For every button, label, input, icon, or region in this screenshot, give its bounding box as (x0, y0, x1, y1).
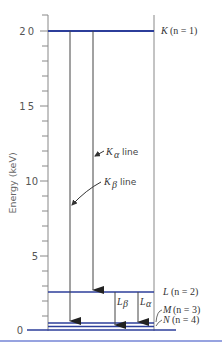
y-axis (27, 15, 48, 331)
svg-text:(n = 4): (n = 4) (172, 314, 199, 326)
tick-label-0: 0 (17, 325, 23, 336)
tick-label-15: 15 (19, 101, 36, 112)
svg-text:line: line (120, 177, 137, 187)
level-N-pointer (156, 320, 162, 326)
tick-label-5: 5 (32, 251, 38, 262)
level-L-label: L (n = 2) (162, 286, 198, 298)
svg-text:(n = 1): (n = 1) (170, 25, 197, 37)
tick-label-20: 20 (19, 26, 36, 37)
k-beta-pointer (72, 182, 101, 205)
level-N-label: N (n = 4) (162, 314, 199, 326)
l-alpha-label: L α (139, 296, 152, 309)
tick-label-10: 10 (25, 176, 38, 187)
svg-text:K: K (105, 146, 114, 157)
svg-text:line: line (122, 147, 139, 157)
svg-text:α: α (146, 298, 152, 309)
svg-text:N: N (162, 314, 171, 325)
svg-text:α: α (114, 149, 120, 160)
energy-level-diagram: 20 15 10 5 0 Energy (keV) K α line K β l… (0, 0, 222, 345)
k-alpha-pointer (95, 151, 104, 156)
svg-text:β: β (122, 298, 128, 309)
l-beta-label: L β (116, 296, 128, 309)
svg-text:L: L (116, 296, 123, 307)
y-axis-title: Energy (keV) (7, 152, 18, 213)
level-K-label: K (n = 1) (160, 25, 197, 37)
svg-text:L: L (139, 296, 146, 307)
k-beta-label: K β line (103, 176, 137, 190)
svg-text:L: L (162, 286, 169, 297)
svg-text:K: K (160, 25, 169, 36)
svg-text:K: K (103, 176, 112, 187)
svg-text:(n = 2): (n = 2) (171, 286, 198, 298)
svg-text:β: β (111, 179, 117, 190)
k-alpha-label: K α line (105, 146, 139, 160)
